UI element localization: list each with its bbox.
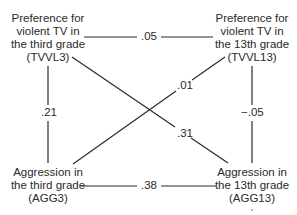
cross-lagged-diagram: Preference for violent TV in the third g…	[0, 0, 297, 215]
node-agg13: Aggression in the 13th grade (AGG13)	[202, 166, 297, 205]
coef-tvvl13-agg13: −.05	[240, 106, 265, 119]
node-tvvl13-line3: the 13th grade	[202, 38, 297, 51]
node-tvvl13-line4: (TVVL13)	[202, 51, 297, 64]
node-tvvl3-line1: Preference for	[0, 12, 98, 25]
node-agg13-line3: (AGG13)	[202, 192, 297, 205]
coef-tvvl3-tvvl13: .05	[140, 30, 158, 43]
node-agg3-line2: the third grade	[0, 179, 98, 192]
node-agg13-line1: Aggression in	[202, 166, 297, 179]
edge-tvvl3-agg13-upper	[72, 57, 175, 127]
node-tvvl13-line2: violent TV in	[202, 25, 297, 38]
node-agg13-line2: the 13th grade	[202, 179, 297, 192]
coef-tvvl3-agg3: .21	[40, 106, 58, 119]
coef-agg3-agg13: .38	[140, 179, 158, 192]
node-tvvl13: Preference for violent TV in the 13th gr…	[202, 12, 297, 64]
node-agg3-line3: (AGG3)	[0, 192, 98, 205]
edge-agg3-tvvl13-lower	[73, 91, 176, 164]
node-tvvl3-line4: (TVVL3)	[0, 51, 98, 64]
node-tvvl3: Preference for violent TV in the third g…	[0, 12, 98, 64]
edge-tvvl3-agg13-lower	[191, 138, 228, 163]
node-agg3: Aggression in the third grade (AGG3)	[0, 166, 98, 205]
coef-tvvl3-agg13: .31	[176, 127, 194, 140]
node-tvvl3-line2: violent TV in	[0, 25, 98, 38]
node-agg3-line1: Aggression in	[0, 166, 98, 179]
node-tvvl3-line3: the third grade	[0, 38, 98, 51]
coef-agg3-tvvl13: .01	[176, 79, 194, 92]
node-tvvl13-line1: Preference for	[202, 12, 297, 25]
stray-dot	[251, 209, 253, 211]
